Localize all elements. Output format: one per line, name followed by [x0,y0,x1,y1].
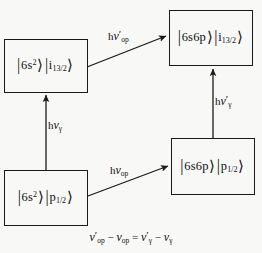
ket-label-top-left: |6s2⟩|i13/2⟩ [17,58,75,73]
state-box-bottom-left[interactable]: |6s2⟩|p1/2⟩ [4,170,88,226]
state-box-bottom-right[interactable]: |6s6p⟩|p1/2⟩ [171,138,255,195]
energy-conservation-equation: ν′op − νop = ν′γ − νγ [0,229,262,245]
arrow-label-right-vertical: hν′γ [215,93,232,109]
state-box-top-left[interactable]: |6s2⟩|i13/2⟩ [4,39,88,93]
ket-label-bottom-left: |6s2⟩|p1/2⟩ [18,190,75,205]
arrow-label-left-vertical: hνγ [48,117,62,133]
arrow-label-bottom-diagonal: hνop [110,162,128,178]
state-box-top-right[interactable]: |6s6p⟩|i13/2⟩ [169,10,253,66]
arrow-label-top-diagonal: hν′op [108,28,129,44]
ket-label-bottom-right: |6s6p⟩|p1/2⟩ [180,159,245,174]
energy-level-diagram: |6s2⟩|i13/2⟩ |6s6p⟩|i13/2⟩ |6s2⟩|p1/2⟩ |… [0,0,262,253]
ket-label-top-right: |6s6p⟩|i13/2⟩ [178,30,245,45]
